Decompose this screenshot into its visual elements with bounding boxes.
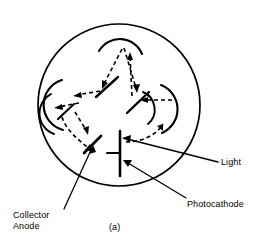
label-photocathode: Photocathode — [187, 199, 244, 210]
leader-line-light — [127, 139, 218, 162]
arrowhead-center-to-top-dynode — [127, 52, 133, 60]
label-collector-anode-line1: Collector — [13, 210, 49, 221]
leader-line-photocathode — [128, 163, 186, 198]
dynode-right-arc — [161, 85, 178, 133]
path-top-dynode-to-left — [104, 49, 122, 84]
figure-caption: (a) — [109, 222, 120, 233]
label-light: Light — [221, 157, 241, 168]
arrowhead-center-to-left-dynode — [73, 92, 82, 98]
arrowhead-photocathode — [123, 160, 132, 167]
electrode-bar-center — [127, 92, 149, 113]
arrowhead-cathode-to-right-dynode — [157, 124, 163, 131]
label-collector-anode-line2: Anode — [13, 221, 49, 232]
path-lower-left-hop — [75, 112, 86, 130]
arrowhead-top-dynode-to-center — [133, 84, 140, 93]
path-cathode-to-right-dynode — [126, 124, 163, 142]
path-left-dynode-to-anode — [62, 117, 90, 149]
arrowhead-left-inner — [54, 104, 63, 110]
label-collector-anode: Collector Anode — [13, 210, 49, 232]
electrode-bar-upper-left — [96, 77, 118, 97]
arrowhead-light — [122, 135, 131, 142]
photomultiplier-figure: Collector Anode Light Photocathode (a) — [0, 0, 262, 247]
